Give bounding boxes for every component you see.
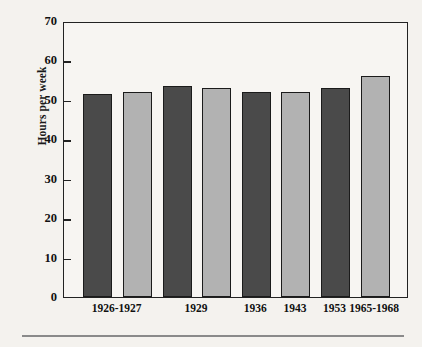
y-tick-label: 40 [45, 132, 58, 147]
plot-area: 010203040506070 [63, 22, 408, 298]
x-axis-label-1936: 1936 [244, 302, 267, 314]
bar-1936-dark [242, 92, 271, 297]
x-axis-label-1943: 1943 [283, 302, 306, 314]
x-axis-label-1926-1927: 1926-1927 [92, 302, 142, 314]
bar-1965-1968-light [361, 76, 390, 297]
bar-series-group [64, 23, 407, 297]
y-tick-label: 60 [45, 53, 58, 68]
bar-1943-light [281, 92, 310, 297]
bar-1926-1927-light [123, 92, 152, 297]
bar-1929-light [202, 88, 231, 297]
y-tick-label: 0 [51, 290, 57, 305]
y-tick-label: 10 [45, 251, 58, 266]
y-tick-label: 20 [45, 211, 58, 226]
y-tick-label: 50 [45, 93, 58, 108]
bar-1953-dark [321, 88, 350, 297]
bar-chart-figure: Hours per week 010203040506070 1926-1927… [0, 0, 422, 347]
x-axis-label-1953: 1953 [323, 302, 346, 314]
bar-1929-dark [163, 86, 192, 297]
x-axis-label-1929: 1929 [184, 302, 207, 314]
x-axis-labels: 1926-192719291936194319531965-1968 [63, 302, 408, 322]
bottom-rule-divider [22, 335, 404, 337]
x-axis-label-1965-1968: 1965-1968 [349, 302, 399, 314]
y-tick-label: 30 [45, 172, 58, 187]
bar-1926-1927-dark [83, 94, 112, 297]
y-tick-label: 70 [45, 14, 58, 29]
